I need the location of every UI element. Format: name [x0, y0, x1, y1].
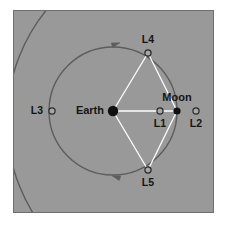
l2-marker	[193, 108, 199, 114]
moon-marker	[173, 107, 180, 114]
l3-marker	[49, 108, 55, 114]
l4-marker	[145, 50, 151, 56]
l3-label: L3	[31, 104, 43, 116]
lagrange-diagram: EarthMoonL1L2L3L4L5	[0, 0, 225, 227]
l1-label: L1	[154, 117, 166, 129]
earth-marker	[108, 106, 118, 116]
earth-label: Earth	[76, 104, 104, 116]
moon-label: Moon	[162, 91, 192, 103]
l2-label: L2	[190, 117, 202, 129]
l5-label: L5	[142, 176, 154, 188]
l1-marker	[157, 108, 163, 114]
figure-root: EarthMoonL1L2L3L4L5	[0, 0, 225, 227]
l5-marker	[145, 167, 151, 173]
l4-label: L4	[142, 33, 154, 45]
